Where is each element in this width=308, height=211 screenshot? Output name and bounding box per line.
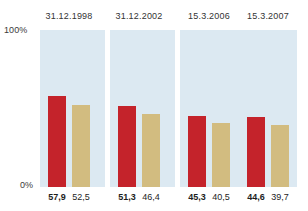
panel-value-row: 51,3 46,4 <box>110 192 175 206</box>
y-axis-tick-0: 0% <box>20 180 33 190</box>
value-primary: 45,3 <box>184 192 210 202</box>
panel-value-row: 45,3 40,5 <box>180 192 245 206</box>
y-axis-tick-100: 100% <box>4 25 27 35</box>
bar-secondary <box>72 105 90 187</box>
panel-bars <box>40 30 105 187</box>
value-primary: 44,6 <box>243 192 269 202</box>
bar-primary <box>118 106 136 187</box>
panel-value-row: 57,9 52,5 <box>40 192 105 206</box>
panel-header-date: 15.3.2006 <box>188 11 230 21</box>
bar-secondary <box>142 114 160 187</box>
value-secondary: 39,7 <box>267 192 293 202</box>
value-secondary: 52,5 <box>68 192 94 202</box>
panel-header-date: 15.3.2007 <box>247 11 289 21</box>
value-primary: 57,9 <box>44 192 70 202</box>
bar-secondary <box>271 125 289 187</box>
chart-panels: 31.12.1998 57,9 52,5 31.12.2002 51,3 46,… <box>40 11 298 211</box>
panel-header-date: 31.12.1998 <box>45 11 92 21</box>
value-secondary: 40,5 <box>208 192 234 202</box>
panel-bars <box>110 30 175 187</box>
chart-panel: 31.12.2002 51,3 46,4 <box>110 11 168 211</box>
bar-primary <box>48 96 66 187</box>
bar-chart: 100% 0% 31.12.1998 57,9 52,5 31.12.2002 … <box>0 0 308 211</box>
chart-panel: 15.3.2006 45,3 40,5 <box>180 11 238 211</box>
chart-panel: 31.12.1998 57,9 52,5 <box>40 11 98 211</box>
value-primary: 51,3 <box>114 192 140 202</box>
value-secondary: 46,4 <box>138 192 164 202</box>
panel-value-row: 44,6 39,7 <box>239 192 304 206</box>
bar-secondary <box>212 123 230 187</box>
panel-bars <box>239 30 304 187</box>
panel-bars <box>180 30 245 187</box>
bar-primary <box>188 116 206 187</box>
chart-panel: 15.3.2007 44,6 39,7 <box>239 11 297 211</box>
panel-header-date: 31.12.2002 <box>115 11 162 21</box>
bar-primary <box>247 117 265 187</box>
